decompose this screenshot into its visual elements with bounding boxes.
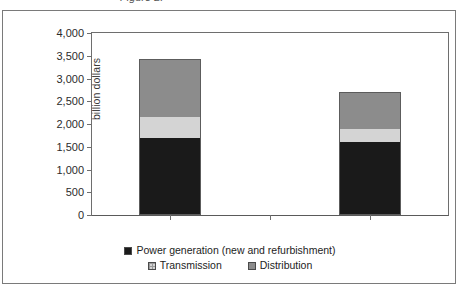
legend-item[interactable]: Distribution xyxy=(248,258,313,273)
figure-title: Figure 2. xyxy=(120,0,163,3)
legend-swatch-medium xyxy=(248,262,256,270)
y-axis-tick-mark xyxy=(87,56,92,57)
y-axis-tick-label: 1,000 xyxy=(32,164,92,176)
x-axis-tick-mark xyxy=(170,215,171,220)
y-axis-tick-label: 1,500 xyxy=(32,141,92,153)
cropped-title-strip: Figure 2. xyxy=(0,0,459,9)
legend-item[interactable]: Power generation (new and refurbishment) xyxy=(124,243,335,258)
y-axis-tick-label: 4,000 xyxy=(32,27,92,39)
y-axis-tick-label: 3,500 xyxy=(32,50,92,62)
legend-swatch-light xyxy=(148,262,156,270)
legend-label: Distribution xyxy=(260,259,313,271)
chart-legend: Power generation (new and refurbishment)… xyxy=(3,243,457,273)
bar-segment[interactable] xyxy=(140,138,200,214)
y-axis-tick-mark xyxy=(87,33,92,34)
bar-segment[interactable] xyxy=(140,60,200,116)
y-axis-tick-label: 2,500 xyxy=(32,95,92,107)
x-axis-tick-mark-mid xyxy=(270,215,271,220)
legend-swatch-dark xyxy=(124,247,132,255)
y-axis-tick-mark xyxy=(87,124,92,125)
y-axis-tick-label: 500 xyxy=(32,186,92,198)
y-axis-tick-label: 3,000 xyxy=(32,73,92,85)
y-axis-tick-mark xyxy=(87,79,92,80)
figure-frame: billion dollars 4,0003,5003,0002,5002,00… xyxy=(2,10,456,284)
bar-segment[interactable] xyxy=(140,117,200,138)
y-axis-tick-label: 0 xyxy=(32,209,92,221)
stacked-bar[interactable] xyxy=(339,92,401,215)
y-axis-tick-label: 2,000 xyxy=(32,118,92,130)
bar-segment[interactable] xyxy=(340,93,400,129)
legend-row: Power generation (new and refurbishment) xyxy=(3,243,457,258)
bar-segment[interactable] xyxy=(340,142,400,214)
y-axis-tick-mark xyxy=(87,101,92,102)
legend-item[interactable]: Transmission xyxy=(148,258,222,273)
bar-segment[interactable] xyxy=(340,129,400,142)
y-axis-tick-mark xyxy=(87,170,92,171)
y-axis-tick-mark xyxy=(87,147,92,148)
legend-row: TransmissionDistribution xyxy=(3,258,457,273)
x-axis-tick-mark xyxy=(370,215,371,220)
legend-label: Transmission xyxy=(160,259,222,271)
y-axis-tick-mark xyxy=(87,215,92,216)
y-axis-tick-mark xyxy=(87,192,92,193)
plot-area: billion dollars 4,0003,5003,0002,5002,00… xyxy=(91,32,449,216)
y-axis-title: billion dollars xyxy=(90,29,102,149)
stacked-bar[interactable] xyxy=(139,59,201,215)
legend-label: Power generation (new and refurbishment) xyxy=(136,244,335,256)
